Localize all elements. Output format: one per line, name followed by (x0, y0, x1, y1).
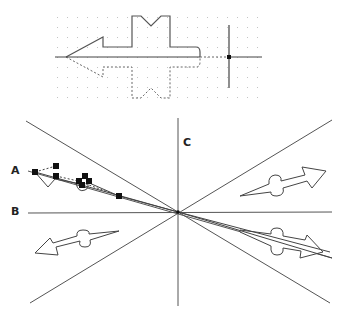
lower-right-arrow[interactable] (178, 212, 332, 258)
center-point (176, 210, 180, 214)
pivot-crosshair-icon[interactable] (227, 25, 262, 88)
upper-right-arrow[interactable] (240, 167, 326, 196)
diagram-canvas (0, 0, 345, 317)
top-arrow-solid-half (66, 16, 200, 57)
label-b: B (11, 205, 19, 218)
upper-left-selected-arrow[interactable] (32, 163, 178, 212)
label-c: C (183, 136, 191, 149)
label-a: A (11, 164, 20, 177)
lower-left-arrow[interactable] (35, 230, 119, 255)
